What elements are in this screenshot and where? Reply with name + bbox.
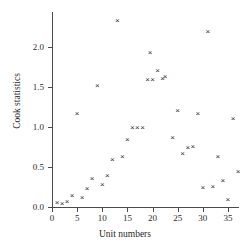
data-point-marker: × — [119, 153, 126, 160]
y-tick-label: 0.5 — [18, 163, 44, 172]
data-point-marker: × — [89, 175, 96, 182]
data-point-marker: × — [79, 194, 86, 201]
x-axis-title: Unit numbers — [0, 229, 250, 239]
y-axis-title: Cook statistics — [12, 41, 22, 161]
data-point-marker: × — [74, 110, 81, 117]
data-point-marker: × — [104, 172, 111, 179]
x-tick-label: 15 — [117, 214, 137, 223]
data-point-marker: × — [214, 153, 221, 160]
x-tick-label: 0 — [42, 214, 62, 223]
data-point-marker: × — [209, 183, 216, 190]
data-point-marker: × — [84, 185, 91, 192]
x-tick — [52, 208, 53, 212]
x-tick-label: 30 — [193, 214, 213, 223]
scatter-plot-figure: 0.00.51.01.52.0 05101520253035 Unit numb… — [0, 0, 250, 252]
data-point-marker: × — [94, 82, 101, 89]
data-point-marker: × — [199, 184, 206, 191]
data-point-marker: × — [189, 143, 196, 150]
x-axis-line — [52, 207, 239, 208]
x-tick — [178, 208, 179, 212]
x-tick — [77, 208, 78, 212]
data-point-marker: × — [162, 73, 169, 80]
y-tick-label: 0.0 — [18, 203, 44, 212]
x-tick-label: 25 — [168, 214, 188, 223]
data-point-marker: × — [194, 110, 201, 117]
x-tick — [127, 208, 128, 212]
x-tick-label: 35 — [218, 214, 238, 223]
x-tick-label: 5 — [67, 214, 87, 223]
x-tick-label: 10 — [92, 214, 112, 223]
x-tick — [203, 208, 204, 212]
data-point-marker: × — [124, 136, 131, 143]
data-point-marker: × — [139, 124, 146, 131]
data-point-marker: × — [147, 49, 154, 56]
data-point-marker: × — [229, 115, 236, 122]
data-point-marker: × — [219, 177, 226, 184]
data-point-marker: × — [109, 156, 116, 163]
x-tick-label: 20 — [143, 214, 163, 223]
data-point-marker: × — [224, 196, 231, 203]
x-tick — [102, 208, 103, 212]
data-point-marker: × — [174, 107, 181, 114]
data-point-marker: × — [169, 134, 176, 141]
x-tick — [228, 208, 229, 212]
data-point-marker: × — [149, 76, 156, 83]
data-point-marker: × — [204, 28, 211, 35]
data-point-marker: × — [154, 67, 161, 74]
data-point-marker: × — [99, 181, 106, 188]
data-point-marker: × — [69, 192, 76, 199]
data-point-marker: × — [114, 17, 121, 24]
data-point-marker: × — [235, 168, 242, 175]
x-tick — [153, 208, 154, 212]
